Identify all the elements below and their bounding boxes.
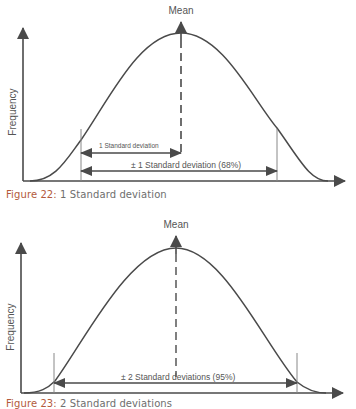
bell-curve-chart-2sd: ± 2 Standard deviations (95%) Mean Frequ… — [0, 210, 356, 400]
plus-minus-two-sd-label: ± 2 Standard deviations (95%) — [121, 372, 235, 382]
mean-label: Mean — [168, 5, 193, 16]
plus-minus-one-sd-label: ± 1 Standard deviation (68%) — [131, 160, 241, 170]
figure-22: 1 Standard deviation ± 1 Standard deviat… — [0, 0, 356, 190]
figure-22-caption-label: Figure 22: — [6, 189, 57, 200]
bell-curve-chart-1sd: 1 Standard deviation ± 1 Standard deviat… — [0, 0, 356, 190]
figure-22-caption-text: 1 Standard deviation — [57, 189, 167, 200]
figure-22-caption: Figure 22: 1 Standard deviation — [6, 189, 167, 200]
figure-23-caption-text: 2 Standard deviations — [57, 398, 172, 409]
one-sd-label: 1 Standard deviation — [99, 142, 159, 149]
mean-label: Mean — [163, 219, 188, 230]
figure-23: ± 2 Standard deviations (95%) Mean Frequ… — [0, 210, 356, 400]
bell-curve — [30, 33, 328, 181]
y-axis-label: Frequency — [5, 303, 16, 350]
figure-23-caption-label: Figure 23: — [6, 398, 57, 409]
figure-23-caption: Figure 23: 2 Standard deviations — [6, 398, 172, 409]
y-axis-label: Frequency — [7, 88, 18, 135]
